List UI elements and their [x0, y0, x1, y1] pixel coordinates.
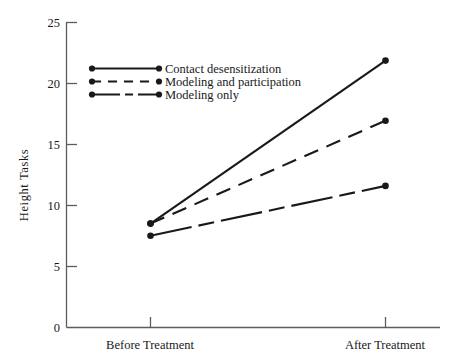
legend-marker-right-contact [156, 65, 162, 71]
chart-legend: Contact desensitization Modeling and par… [89, 62, 302, 102]
x-tick-label-after: After Treatment [345, 338, 426, 352]
data-point-modeling-participation-before [147, 220, 154, 227]
y-tick-label-5: 5 [54, 260, 60, 274]
legend-item-contact-desensitization: Contact desensitization [89, 62, 282, 76]
data-point-modeling-participation-after [382, 117, 389, 124]
data-point-modeling-only-after [382, 183, 389, 190]
legend-marker-right-modeling-only [156, 91, 162, 97]
x-tick-labels: Before Treatment After Treatment [106, 338, 426, 352]
y-tick-marks [67, 23, 78, 267]
y-tick-label-15: 15 [48, 138, 61, 152]
legend-marker-left-modeling-only [89, 91, 95, 97]
legend-marker-left-contact [89, 65, 95, 71]
y-tick-label-10: 10 [48, 199, 61, 213]
x-tick-label-before: Before Treatment [106, 338, 194, 352]
x-tick-marks [151, 317, 386, 328]
series-line-modeling-only [151, 186, 386, 236]
data-point-contact-after [382, 57, 389, 64]
series-modeling-and-participation [147, 117, 389, 227]
legend-label-contact-desensitization: Contact desensitization [165, 62, 282, 76]
line-chart: 25 20 15 10 5 0 Height Tasks Before Trea… [0, 0, 452, 363]
y-axis-title: Height Tasks [17, 149, 31, 221]
legend-marker-left-modeling-participation [89, 78, 95, 84]
series-modeling-only [147, 183, 389, 240]
legend-item-modeling-only: Modeling only [89, 88, 240, 102]
legend-label-modeling-only: Modeling only [165, 88, 240, 102]
y-tick-label-0: 0 [54, 321, 60, 335]
legend-marker-right-modeling-participation [156, 78, 162, 84]
y-tick-labels: 25 20 15 10 5 0 [48, 16, 61, 335]
data-point-modeling-only-before [147, 233, 154, 240]
y-tick-label-25: 25 [48, 16, 61, 30]
legend-item-modeling-and-participation: Modeling and participation [89, 75, 302, 89]
series-line-modeling-and-participation [151, 121, 386, 224]
y-tick-label-20: 20 [48, 77, 61, 91]
chart-canvas: 25 20 15 10 5 0 Height Tasks Before Trea… [0, 0, 452, 363]
legend-label-modeling-and-participation: Modeling and participation [165, 75, 302, 89]
